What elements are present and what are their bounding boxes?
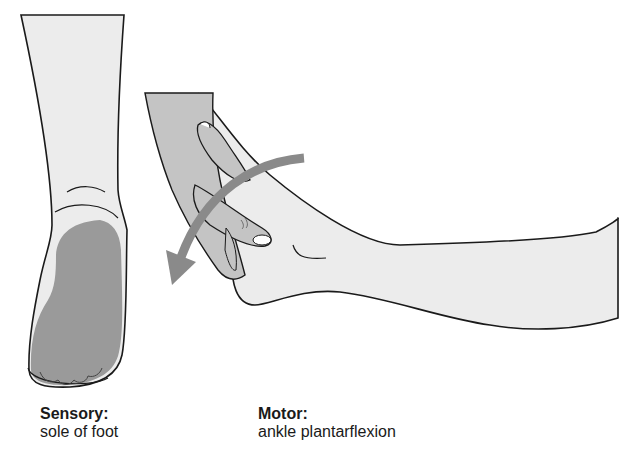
sensory-description: sole of foot [40,423,118,441]
sensory-leg-illustration [21,15,127,387]
dermatome-myotome-illustration [0,0,634,400]
motor-caption: Motor: ankle plantarflexion [258,405,396,441]
motor-foot-illustration [145,93,618,329]
motor-title: Motor: [258,405,396,423]
sensory-caption: Sensory: sole of foot [40,405,118,441]
sensory-title: Sensory: [40,405,118,423]
motor-description: ankle plantarflexion [258,423,396,441]
